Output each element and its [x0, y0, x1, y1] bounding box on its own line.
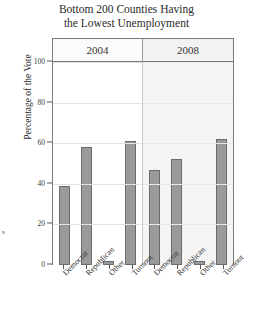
y-tick-label: 20: [21, 219, 45, 228]
panel-strip-label-2008: 2008: [177, 44, 199, 56]
chart-title-line-2: the Lowest Unemployment: [0, 16, 253, 30]
panel-strip-2004: 2004: [53, 39, 143, 62]
y-axis: 020406080100: [28, 36, 52, 266]
panel-2008: [143, 62, 233, 265]
gridline: [53, 184, 142, 185]
y-tick-label: 60: [21, 138, 45, 147]
bar-group-2004: [53, 62, 142, 265]
gridline: [143, 184, 233, 185]
bar: [216, 139, 227, 265]
gridline: [53, 103, 142, 104]
gridline: [53, 62, 142, 63]
gridline: [143, 224, 233, 225]
plot-frame: 2004 2008: [52, 38, 234, 265]
gridline: [143, 62, 233, 63]
bar: [125, 141, 136, 265]
x-axis: DemocratRepublicanOtherTurnoutDemocratRe…: [52, 265, 234, 329]
bar: [59, 186, 70, 265]
chart-page: Bottom 200 Counties Having the Lowest Un…: [0, 0, 253, 329]
y-tick-label: 40: [21, 178, 45, 187]
chart-title: Bottom 200 Counties Having the Lowest Un…: [0, 2, 253, 30]
bar: [81, 147, 92, 265]
y-tick-label: 100: [21, 57, 45, 66]
panel-strip-label-2004: 2004: [87, 44, 109, 56]
panel-2004: [53, 62, 143, 265]
gridline: [143, 103, 233, 104]
gridline: [143, 143, 233, 144]
gridline: [53, 224, 142, 225]
y-tick-label: 0: [21, 260, 45, 269]
chart-title-line-1: Bottom 200 Counties Having: [0, 2, 253, 16]
stray-text-fragment: s: [2, 228, 5, 236]
gridline: [53, 143, 142, 144]
bar-group-2008: [143, 62, 233, 265]
y-tick-label: 80: [21, 97, 45, 106]
panel-strip-2008: 2008: [143, 39, 233, 62]
